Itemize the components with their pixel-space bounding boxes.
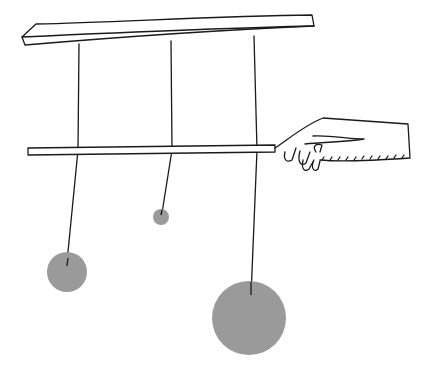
mobile-illustration	[0, 0, 432, 370]
middle-string	[162, 41, 172, 213]
rod	[28, 145, 275, 155]
top-beam	[22, 15, 314, 45]
left-weight	[47, 252, 87, 292]
right-string	[251, 36, 257, 296]
small-weight	[153, 209, 169, 225]
mobile-drawing	[0, 0, 432, 370]
hand-icon	[275, 118, 410, 170]
large-weight	[212, 281, 286, 355]
